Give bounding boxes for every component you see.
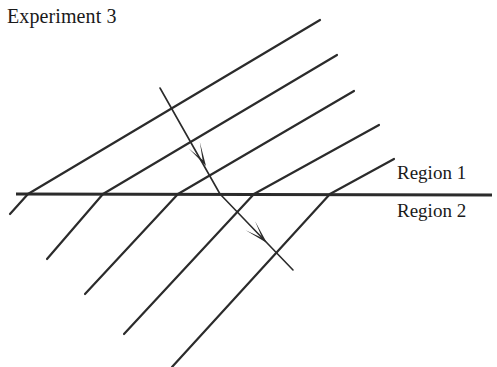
figure-canvas xyxy=(0,0,497,367)
interface-line xyxy=(16,194,492,195)
figure-background xyxy=(0,0,497,367)
region-1-label: Region 1 xyxy=(397,163,466,182)
figure-title: Experiment 3 xyxy=(7,6,117,26)
refraction-figure: Experiment 3 Region 1 Region 2 xyxy=(0,0,497,367)
region-2-label: Region 2 xyxy=(397,201,466,220)
